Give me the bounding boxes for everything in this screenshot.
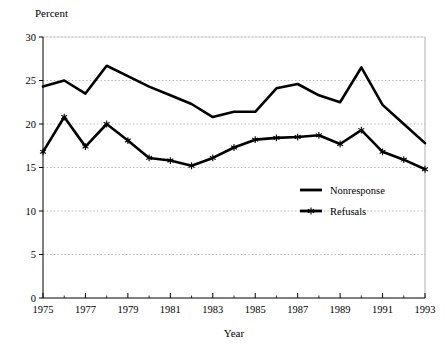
- y-axis-ticks: [39, 37, 43, 298]
- x-tick-label: 1979: [117, 304, 138, 315]
- legend-label-nonresponse: Nonresponse: [330, 185, 385, 196]
- x-tick-label: 1983: [202, 304, 223, 315]
- series-refusals: [40, 114, 428, 173]
- x-tick-label: 1993: [415, 304, 436, 315]
- y-tick-label: 15: [26, 162, 37, 173]
- y-tick-label: 10: [26, 206, 37, 217]
- x-axis-label: Year: [224, 327, 245, 339]
- x-tick-label: 1991: [372, 304, 393, 315]
- x-tick-label: 1975: [33, 304, 54, 315]
- y-tick-label: 0: [31, 293, 36, 304]
- y-tick-label: 5: [31, 249, 36, 260]
- x-tick-label: 1985: [245, 304, 266, 315]
- x-axis-ticks: [43, 293, 425, 298]
- x-axis-tick-labels: 1975197719791981198319851987198919911993: [33, 304, 436, 315]
- y-tick-label: 20: [26, 119, 37, 130]
- y-tick-label: 25: [26, 75, 37, 86]
- legend: NonresponseRefusals: [300, 185, 385, 217]
- chart-canvas: 051015202530 197519771979198119831985198…: [0, 0, 446, 347]
- x-tick-label: 1989: [330, 304, 351, 315]
- line-chart: 051015202530 197519771979198119831985198…: [0, 0, 446, 347]
- x-tick-label: 1987: [287, 304, 308, 315]
- series-line: [43, 117, 425, 169]
- x-tick-label: 1977: [75, 304, 96, 315]
- x-tick-label: 1981: [160, 304, 181, 315]
- y-axis-tick-labels: 051015202530: [26, 32, 37, 304]
- y-tick-label: 30: [26, 32, 37, 43]
- y-axis-label: Percent: [35, 7, 68, 19]
- legend-label-refusals: Refusals: [330, 206, 366, 217]
